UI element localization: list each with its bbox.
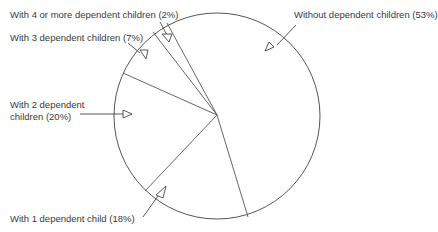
label-four-or-more: With 4 or more dependent children (2%) [10, 9, 178, 21]
arrow-without-head [265, 42, 274, 51]
label-two-children-line2: children (20%) [10, 111, 71, 123]
arrow-four-shaft [160, 22, 167, 35]
arrow-three-shaft [128, 43, 140, 53]
slice-divider-four-without [167, 23, 217, 115]
label-two-children-line1: With 2 dependent [10, 99, 84, 111]
slice-divider-one-two [145, 115, 217, 191]
slice-divider-three-four [153, 32, 217, 115]
slice-divider-without-one [217, 115, 248, 217]
slice-divider-two-three [123, 73, 217, 115]
arrow-two-head [123, 110, 132, 118]
label-three-children: With 3 dependent children (7%) [10, 32, 143, 44]
arrow-three-head [140, 50, 148, 59]
label-without-children: Without dependent children (53%) [294, 9, 438, 21]
arrow-one-shaft [143, 196, 158, 217]
arrow-four-head [162, 34, 172, 42]
label-one-child: With 1 dependent child (18%) [10, 213, 135, 225]
